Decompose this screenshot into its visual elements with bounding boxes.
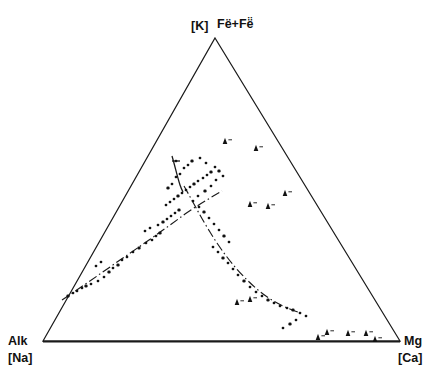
- vertex-label-mg: Mg: [404, 334, 422, 348]
- data-point: [203, 189, 206, 192]
- data-point: [305, 315, 308, 318]
- data-point: [100, 261, 103, 264]
- data-point: [218, 229, 221, 232]
- data-point-triangle: [373, 336, 378, 342]
- data-point: [126, 256, 129, 259]
- data-point: [279, 305, 282, 308]
- data-point: [76, 290, 79, 293]
- data-point: [202, 177, 205, 180]
- data-point: [237, 274, 240, 277]
- data-point: [175, 160, 178, 163]
- data-point: [121, 259, 124, 262]
- data-point: [183, 167, 186, 170]
- data-point: [185, 189, 188, 192]
- data-point: [215, 179, 218, 182]
- vertex-labels: [K] Fë+Fë̈ Alk [Na] Mg [Ca]: [8, 16, 422, 365]
- data-point: [145, 242, 148, 245]
- trend-curves: [62, 156, 301, 313]
- data-point: [157, 224, 160, 227]
- data-point: [166, 186, 169, 189]
- data-point: [190, 159, 193, 162]
- data-point: [192, 200, 195, 203]
- data-point: [217, 251, 220, 254]
- data-point: [151, 239, 154, 242]
- data-point-triangle: [254, 145, 259, 151]
- data-point: [197, 180, 200, 183]
- circle-marker-group: [66, 157, 307, 330]
- data-point: [176, 194, 179, 197]
- vertex-label-ca: [Ca]: [398, 351, 422, 365]
- data-point: [242, 279, 245, 282]
- data-point: [255, 291, 258, 294]
- data-point: [81, 287, 84, 290]
- data-point: [261, 295, 264, 298]
- data-point: [212, 246, 215, 249]
- ternary-triangle-border: [43, 38, 400, 341]
- data-point: [213, 223, 216, 226]
- data-point: [179, 173, 182, 176]
- data-point: [209, 170, 212, 173]
- data-point-triangle: [325, 329, 330, 335]
- data-point: [95, 265, 98, 268]
- data-point: [72, 292, 75, 295]
- vertex-label-na: [Na]: [8, 351, 32, 365]
- data-point: [198, 206, 201, 209]
- data-point-triangle: [248, 296, 253, 302]
- data-point: [132, 251, 135, 254]
- data-point: [291, 308, 294, 311]
- data-point-triangle: [316, 334, 321, 340]
- data-point: [169, 201, 172, 204]
- descending-branch-curve: [184, 186, 301, 313]
- data-point: [149, 227, 152, 230]
- data-point: [155, 235, 158, 238]
- ternary-diagram: [K] Fë+Fë̈ Alk [Na] Mg [Ca]: [0, 0, 430, 380]
- data-point: [286, 307, 289, 310]
- data-point: [206, 174, 209, 177]
- data-point: [210, 185, 213, 188]
- apex-label-fe: Fë+Fë̈: [217, 16, 254, 31]
- data-point: [103, 276, 106, 279]
- data-point: [187, 164, 190, 167]
- data-point: [232, 268, 235, 271]
- data-point: [295, 319, 298, 322]
- data-point: [166, 218, 169, 221]
- triangle-outline: [43, 38, 400, 342]
- data-point: [227, 262, 230, 265]
- data-point: [137, 246, 140, 249]
- data-point-triangle: [364, 330, 369, 336]
- data-point: [170, 215, 173, 218]
- data-point: [221, 256, 224, 259]
- data-point: [222, 175, 225, 178]
- data-point: [202, 210, 205, 213]
- data-point: [273, 302, 276, 305]
- data-point-triangle: [248, 201, 253, 207]
- data-point: [107, 270, 110, 273]
- triangle-marker-group: [223, 138, 382, 342]
- data-point: [116, 263, 119, 266]
- data-point: [174, 212, 177, 215]
- data-point: [222, 234, 225, 237]
- data-point: [192, 182, 195, 185]
- data-point: [266, 298, 269, 301]
- apex-label-k: [K]: [191, 19, 208, 33]
- data-point: [214, 166, 217, 169]
- data-point: [161, 220, 164, 223]
- data-point: [282, 327, 285, 330]
- data-point: [173, 198, 176, 201]
- data-point: [66, 294, 69, 297]
- data-point-triangle: [223, 138, 228, 144]
- data-point: [205, 162, 208, 165]
- data-point: [84, 284, 87, 287]
- data-point: [288, 322, 291, 325]
- data-point: [165, 204, 168, 207]
- data-point: [249, 286, 252, 289]
- data-point: [97, 280, 100, 283]
- data-point-triangle: [346, 330, 351, 336]
- data-point-triangle: [283, 190, 288, 196]
- data-point: [181, 192, 184, 195]
- data-point: [197, 195, 200, 198]
- vertex-label-alk: Alk: [8, 334, 28, 348]
- data-point: [217, 169, 220, 172]
- data-point: [299, 312, 302, 315]
- data-point: [90, 283, 93, 286]
